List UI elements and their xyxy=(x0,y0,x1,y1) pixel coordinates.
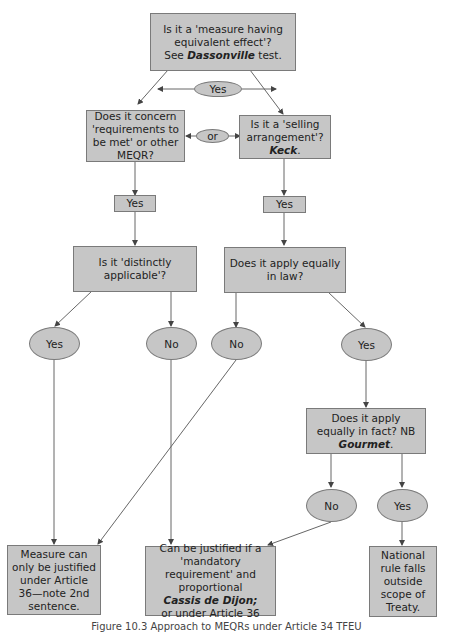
cassis-de-dijon-box: Can be justified if a 'mandatory require… xyxy=(145,546,276,616)
or-oval: or xyxy=(196,129,229,143)
no-oval-distinct: No xyxy=(146,327,197,360)
gourmet-case: Gourmet xyxy=(339,438,391,450)
yes-oval-top: Yes xyxy=(194,81,242,97)
meqe-question-box: Is it a 'measure having equivalent effec… xyxy=(150,13,296,71)
yes-oval-law: Yes xyxy=(341,328,392,361)
equal-in-law-box: Does it apply equally in law? xyxy=(224,247,346,293)
meqe-line1: Is it a 'measure having equivalent effec… xyxy=(163,23,283,48)
distinctly-applicable-box: Is it 'distinctly applicable'? xyxy=(73,246,197,292)
no-oval-law: No xyxy=(211,327,262,360)
no-oval-fact: No xyxy=(306,489,357,522)
cassis-case: Cassis de Dijon; xyxy=(164,594,258,606)
yes-oval-distinct: Yes xyxy=(29,327,80,360)
yes-box-right: Yes xyxy=(263,196,306,213)
dassonville-case: Dassonville xyxy=(187,49,255,61)
equal-in-fact-box: Does it apply equally in fact? NB Gourme… xyxy=(306,408,426,454)
article-36-box: Measure can only be justified under Arti… xyxy=(7,545,101,615)
yes-oval-fact: Yes xyxy=(377,489,428,522)
keck-case: Keck xyxy=(269,144,297,156)
yes-box-left: Yes xyxy=(114,195,156,212)
selling-arrangement-box: Is it a 'selling arrangement'? Keck. xyxy=(239,115,331,159)
figure-caption: Figure 10.3 Approach to MEQRs under Arti… xyxy=(0,621,453,632)
requirements-question-box: Does it concern 'requirements to be met'… xyxy=(86,110,185,162)
outside-scope-box: National rule falls outside scope of Tre… xyxy=(369,546,437,617)
